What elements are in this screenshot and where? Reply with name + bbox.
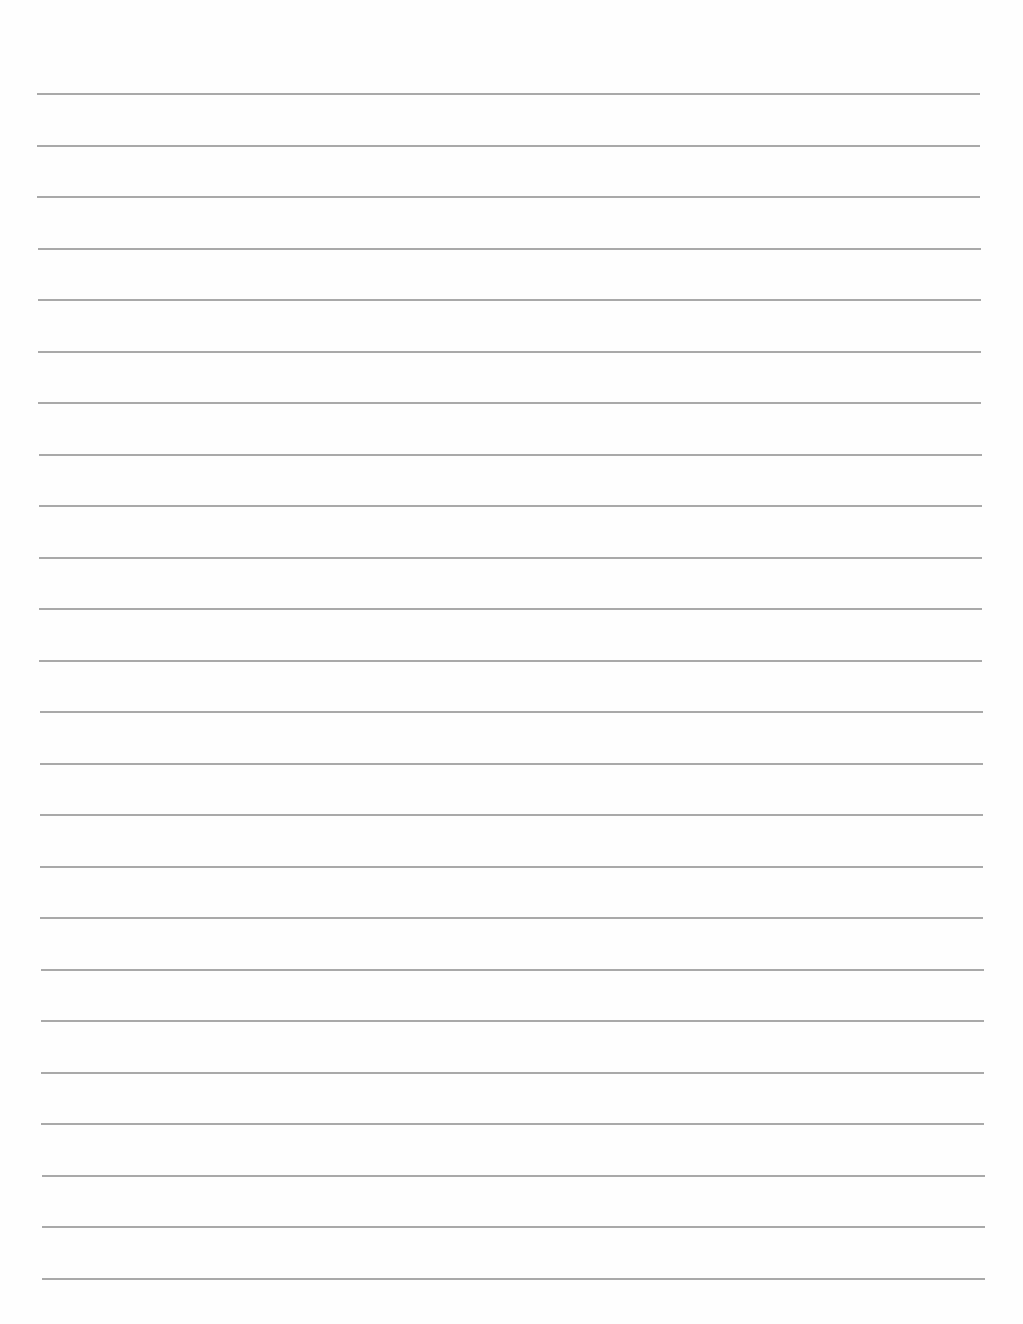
lined-paper-page [0, 0, 1023, 1324]
ruled-line [40, 711, 983, 713]
ruled-line [38, 299, 981, 301]
ruled-line [41, 1072, 984, 1074]
ruled-line [42, 1278, 985, 1280]
ruled-line [37, 93, 980, 95]
ruled-line [38, 402, 981, 404]
ruled-line [41, 1020, 984, 1022]
ruled-line [39, 505, 982, 507]
ruled-line [40, 763, 983, 765]
ruled-line [42, 1175, 985, 1177]
ruled-line [37, 196, 980, 198]
ruled-line [39, 454, 982, 456]
ruled-line [40, 866, 983, 868]
ruled-line [40, 814, 983, 816]
ruled-line [42, 1226, 985, 1228]
ruled-line [39, 557, 982, 559]
ruled-line [39, 660, 982, 662]
ruled-line [41, 1123, 984, 1125]
ruled-line [38, 351, 981, 353]
ruled-line [41, 969, 984, 971]
ruled-line [40, 917, 983, 919]
ruled-line [39, 608, 982, 610]
ruled-line [37, 145, 980, 147]
ruled-line [38, 248, 981, 250]
